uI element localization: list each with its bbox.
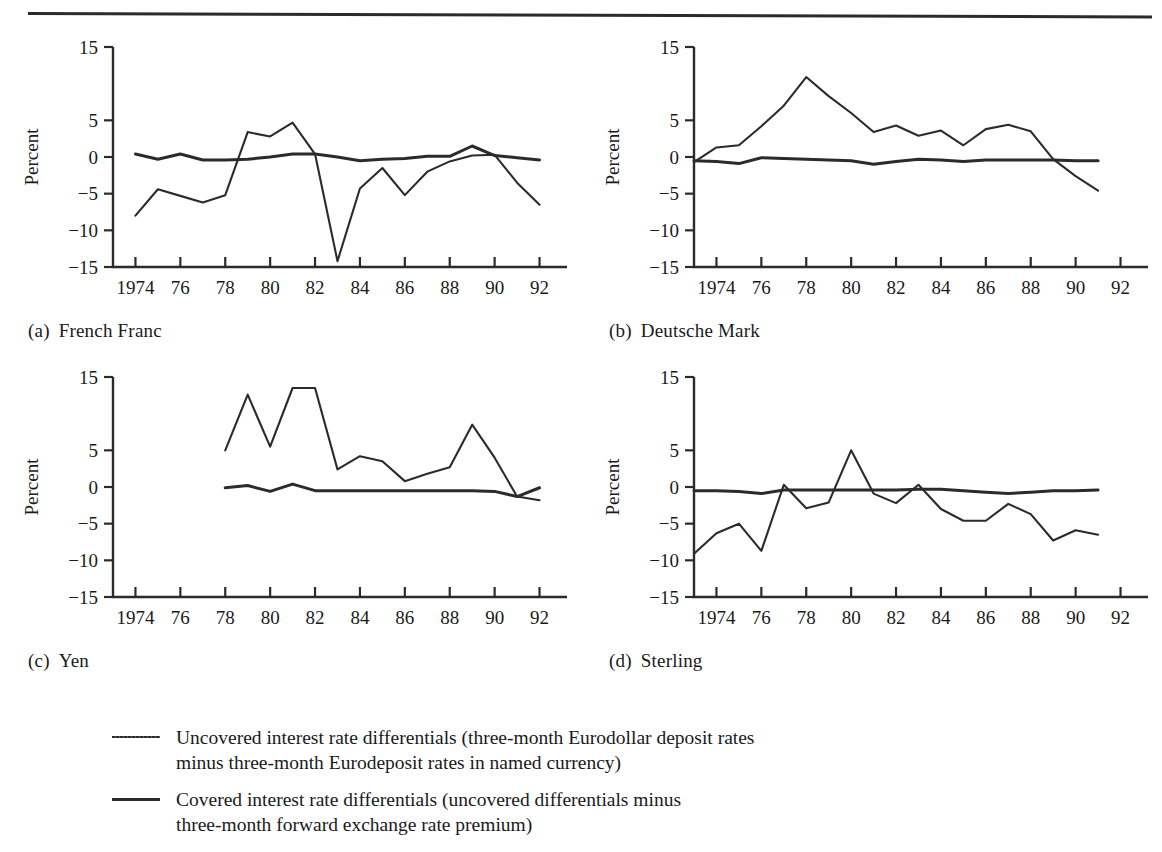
panel-index-a: (a) [28, 320, 50, 341]
x-tick-label: 78 [216, 277, 235, 298]
x-tick-label: 76 [171, 277, 190, 298]
x-tick-label: 82 [887, 607, 906, 628]
x-tick-label: 84 [350, 277, 370, 298]
y-tick-label: 0 [670, 147, 680, 168]
figure-panel-grid: 1550−5−10−151974767880828486889092Percen… [0, 22, 1162, 682]
plot-deutsche-mark: 1550−5−10−151974767880828486889092Percen… [581, 22, 1162, 322]
x-tick-label: 1974 [697, 277, 736, 298]
x-tick-label: 80 [842, 607, 861, 628]
y-tick-label: 5 [89, 110, 99, 131]
y-tick-label: 0 [670, 477, 680, 498]
y-tick-label: 15 [79, 367, 98, 388]
x-tick-label: 86 [976, 277, 995, 298]
x-tick-label: 88 [1021, 277, 1040, 298]
x-tick-label: 88 [440, 607, 459, 628]
legend-text-uncovered: Uncovered interest rate differentials (t… [176, 725, 754, 775]
y-tick-label: −15 [649, 257, 679, 278]
legend-text-covered: Covered interest rate differentials (unc… [176, 787, 681, 837]
legend-uncovered-line2: minus three-month Eurodeposit rates in n… [176, 750, 754, 775]
y-tick-label: −5 [78, 183, 98, 204]
legend-swatch-covered-icon [112, 798, 160, 801]
legend-uncovered-line1: Uncovered interest rate differentials (t… [176, 725, 754, 750]
x-tick-label: 78 [797, 277, 816, 298]
y-tick-label: −5 [78, 513, 98, 534]
x-tick-label: 78 [797, 607, 816, 628]
x-tick-label: 80 [261, 607, 280, 628]
figure-legend: Uncovered interest rate differentials (t… [0, 715, 1162, 845]
panel-title-b: Deutsche Mark [641, 320, 760, 341]
series-uncovered [225, 388, 539, 500]
y-tick-label: −5 [659, 183, 679, 204]
x-tick-label: 88 [440, 277, 459, 298]
x-tick-label: 82 [306, 607, 325, 628]
header-rule [28, 12, 1152, 19]
y-axis-title: Percent [602, 458, 623, 516]
y-tick-label: −10 [649, 550, 679, 571]
legend-swatch-uncovered-icon [112, 736, 160, 738]
plot-yen: 1550−5−10−151974767880828486889092Percen… [0, 352, 581, 652]
y-tick-label: 0 [89, 147, 99, 168]
y-tick-label: −5 [659, 513, 679, 534]
x-tick-label: 90 [1066, 607, 1085, 628]
x-tick-label: 90 [1066, 277, 1085, 298]
x-tick-label: 86 [395, 277, 414, 298]
y-axis-title: Percent [602, 128, 623, 186]
x-tick-label: 78 [216, 607, 235, 628]
y-tick-label: −10 [68, 550, 98, 571]
x-tick-label: 76 [171, 607, 190, 628]
x-tick-label: 76 [752, 277, 771, 298]
x-tick-label: 88 [1021, 607, 1040, 628]
chart-panel-deutsche-mark: 1550−5−10−151974767880828486889092Percen… [581, 22, 1162, 352]
chart-panel-yen: 1550−5−10−151974767880828486889092Percen… [0, 352, 581, 682]
x-tick-label: 90 [485, 277, 504, 298]
series-covered [694, 158, 1098, 165]
axis-spine [113, 377, 567, 597]
plot-sterling: 1550−5−10−151974767880828486889092Percen… [581, 352, 1162, 652]
legend-covered-line2: three-month forward exchange rate premiu… [176, 812, 681, 837]
y-tick-label: −15 [68, 257, 98, 278]
x-tick-label: 1974 [116, 607, 155, 628]
x-tick-label: 90 [485, 607, 504, 628]
x-tick-label: 1974 [697, 607, 736, 628]
panel-title-a: French Franc [59, 320, 162, 341]
y-tick-label: 15 [79, 37, 98, 58]
x-tick-label: 80 [842, 277, 861, 298]
panel-caption-yen: (c)Yen [28, 650, 89, 672]
y-tick-label: 5 [89, 440, 99, 461]
series-uncovered [135, 123, 539, 262]
x-tick-label: 86 [976, 607, 995, 628]
series-uncovered [694, 77, 1098, 191]
y-tick-label: −15 [68, 587, 98, 608]
x-tick-label: 76 [752, 607, 771, 628]
y-tick-label: 0 [89, 477, 99, 498]
y-axis-title: Percent [21, 458, 42, 516]
plot-french-franc: 1550−5−10−151974767880828486889092Percen… [0, 22, 581, 322]
legend-item-covered: Covered interest rate differentials (unc… [112, 787, 1012, 837]
chart-panel-sterling: 1550−5−10−151974767880828486889092Percen… [581, 352, 1162, 682]
chart-panel-french-franc: 1550−5−10−151974767880828486889092Percen… [0, 22, 581, 352]
y-tick-label: 15 [660, 367, 679, 388]
panel-index-b: (b) [609, 320, 632, 341]
y-axis-title: Percent [21, 128, 42, 186]
y-tick-label: −10 [68, 220, 98, 241]
y-tick-label: −15 [649, 587, 679, 608]
x-tick-label: 84 [931, 277, 951, 298]
series-uncovered [694, 450, 1098, 553]
x-tick-label: 1974 [116, 277, 155, 298]
x-tick-label: 92 [530, 277, 549, 298]
panel-caption-deutsche-mark: (b)Deutsche Mark [609, 320, 760, 342]
legend-covered-line1: Covered interest rate differentials (unc… [176, 787, 681, 812]
x-tick-label: 84 [350, 607, 370, 628]
panel-caption-sterling: (d)Sterling [609, 650, 703, 672]
series-covered [225, 484, 539, 496]
x-tick-label: 82 [887, 277, 906, 298]
x-tick-label: 84 [931, 607, 951, 628]
x-tick-label: 92 [1111, 607, 1130, 628]
panel-title-c: Yen [59, 650, 89, 671]
x-tick-label: 86 [395, 607, 414, 628]
y-tick-label: 15 [660, 37, 679, 58]
y-tick-label: 5 [670, 110, 680, 131]
panel-caption-french-franc: (a)French Franc [28, 320, 162, 342]
x-tick-label: 82 [306, 277, 325, 298]
x-tick-label: 80 [261, 277, 280, 298]
